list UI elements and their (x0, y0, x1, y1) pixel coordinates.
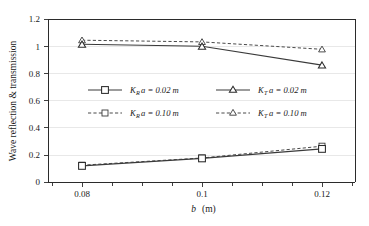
series-kt-002 (78, 41, 325, 68)
y-tick-label: 1 (36, 42, 41, 52)
chart-figure: 1.2 1 0.8 0.6 0.4 0.2 0 0.08 0.1 0.12 (0, 0, 369, 226)
y-axis-title: Wave reflection & transmission (8, 41, 18, 162)
legend-item-kr-010[interactable]: K R a = 0.10 m (88, 108, 179, 119)
legend-label-kr-010-text: a = 0.10 m (141, 108, 179, 118)
legend-label-kt-002-text: a = 0.02 m (269, 85, 307, 95)
chart-canvas: 1.2 1 0.8 0.6 0.4 0.2 0 0.08 0.1 0.12 (0, 0, 369, 226)
legend-label-kr-002-sub: R (135, 89, 140, 96)
legend-label-kt-010-text: a = 0.10 m (269, 108, 307, 118)
x-tick-label: 0.12 (314, 189, 330, 199)
x-tick-label: 0.1 (196, 189, 207, 199)
legend-label-kt-010-sub: T (264, 112, 268, 119)
y-tick-label: 0.4 (29, 123, 41, 133)
legend-label-kt-002-sub: T (264, 89, 268, 96)
legend-label-kr-002-text: a = 0.02 m (141, 85, 179, 95)
y-tick-label: 0 (36, 177, 41, 187)
x-tick-label: 0.08 (74, 189, 90, 199)
x-axis-title-symbol: b (191, 204, 196, 214)
square-open-icon (102, 87, 109, 94)
legend-item-kt-010[interactable]: K T a = 0.10 m (216, 108, 307, 119)
square-open-icon (102, 110, 108, 116)
x-axis-tick-labels: 0.08 0.1 0.12 (74, 189, 330, 199)
y-axis-tick-labels: 1.2 1 0.8 0.6 0.4 0.2 0 (29, 14, 41, 187)
y-tick-label: 0.2 (29, 150, 40, 160)
legend-label-kr-010-sub: R (135, 112, 140, 119)
x-axis-title: b (m) (191, 204, 215, 215)
legend-item-kt-002[interactable]: K T a = 0.02 m (216, 85, 307, 96)
triangle-open-icon (229, 86, 236, 92)
y-tick-label: 0.8 (29, 69, 41, 79)
x-axis-title-unit: (m) (202, 204, 216, 215)
y-tick-label: 1.2 (29, 14, 40, 24)
y-axis-title-label: Wave reflection & transmission (8, 41, 18, 162)
legend-item-kr-002[interactable]: K R a = 0.02 m (88, 85, 179, 96)
y-tick-label: 0.6 (29, 96, 41, 106)
y-axis-ticks (44, 19, 49, 182)
chart-legend: K R a = 0.02 m K T a = 0.02 m K R a = 0.… (88, 85, 307, 119)
triangle-open-icon (230, 109, 237, 115)
x-axis-ticks (52, 182, 352, 187)
